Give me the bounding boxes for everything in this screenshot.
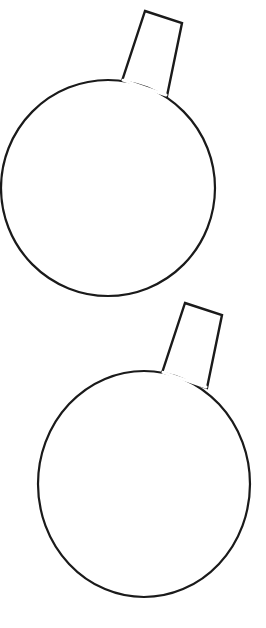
- coloring-page-canvas: Pumpkin Outline Coloring Page Black and …: [0, 0, 266, 628]
- line-art-illustration: [0, 0, 266, 628]
- pumpkin-bottom-body-icon: [38, 371, 250, 597]
- pumpkin-top-body-icon: [1, 80, 215, 296]
